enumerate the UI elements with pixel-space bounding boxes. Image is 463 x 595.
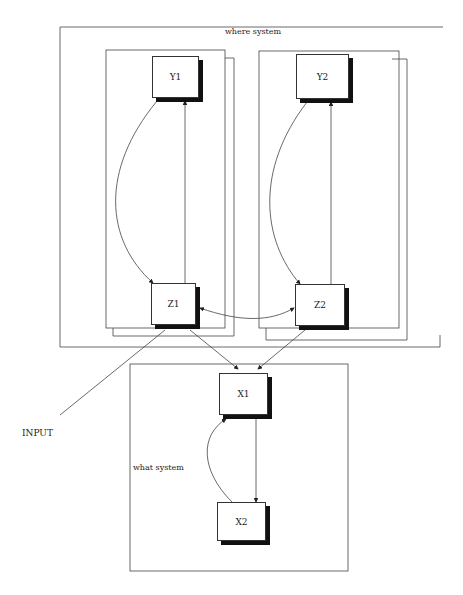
input-label: INPUT [22, 428, 53, 438]
edge-y2-z2 [270, 102, 307, 284]
where-system-label: where system [225, 27, 281, 36]
node-y1: Y1 [152, 56, 199, 98]
node-z2-label: Z2 [314, 300, 326, 310]
where-system-border [60, 27, 443, 347]
node-x2: X2 [217, 502, 266, 541]
node-z1: Z1 [151, 283, 196, 325]
node-z1-label: Z1 [168, 299, 180, 309]
node-x1: X1 [219, 373, 268, 415]
node-x1-label: X1 [237, 389, 249, 399]
edge-z2-x1 [258, 330, 305, 369]
node-z2: Z2 [295, 284, 345, 326]
input-line [60, 330, 165, 415]
node-y2-label: Y2 [317, 72, 329, 82]
node-x2-label: X2 [235, 517, 247, 527]
edge-y1-z1 [116, 101, 157, 283]
edge-x2-x1 [207, 419, 232, 502]
edge-z1-z2 [200, 308, 294, 319]
node-y2: Y2 [296, 54, 349, 99]
node-y1-label: Y1 [170, 72, 182, 82]
what-system-label: what system [133, 463, 184, 472]
